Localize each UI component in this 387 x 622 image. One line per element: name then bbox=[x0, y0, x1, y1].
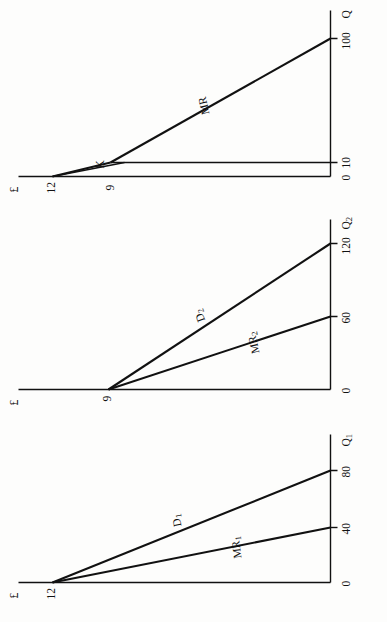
panel-3-ylabel-currency: £ bbox=[8, 186, 20, 192]
panel-3-xtick-label-0: 0 bbox=[340, 174, 352, 180]
panel-3-xtick-label-100: 100 bbox=[340, 32, 352, 49]
panel-2-xaxis-title: Q2 bbox=[340, 216, 352, 229]
panel-1-curve-label-mr1-text: MR bbox=[229, 540, 243, 559]
panel-1-xaxis-title: Q1 bbox=[340, 433, 352, 446]
panel-3-curve-mr bbox=[110, 38, 330, 162]
panel-3-xaxis-title: Q bbox=[340, 10, 352, 18]
panel-1-xtick-label-0: 0 bbox=[340, 580, 352, 586]
panel-1-xtick-label-80: 80 bbox=[340, 466, 352, 478]
panel-2-curve-label-mr2: MR2 bbox=[246, 330, 262, 354]
chart-panel-2: £ 9 0 60 120 Q2 D2 MR2 bbox=[0, 210, 387, 425]
panel-1-ylabel-currency: £ bbox=[8, 592, 20, 598]
panel-2-xtick-label-0: 0 bbox=[340, 387, 352, 393]
panel-2-curve-mr2 bbox=[108, 316, 330, 389]
panel-1-plot bbox=[0, 425, 387, 622]
figure-root: £ 12 0 40 80 Q1 D1 MR1 £ 9 0 bbox=[0, 0, 387, 622]
panel-3-plot bbox=[0, 0, 387, 210]
panel-3-ytick-9: 9 bbox=[104, 184, 116, 190]
panel-3-ytick-12: 12 bbox=[45, 182, 57, 194]
panel-1-ytick-12: 12 bbox=[45, 588, 57, 600]
panel-2-ylabel-currency: £ bbox=[8, 399, 20, 405]
panel-1-curve-label-mr1: MR1 bbox=[229, 535, 243, 558]
panel-2-xaxis-title-text: Q bbox=[339, 221, 351, 229]
panel-1-curve-label-mr1-sub: 1 bbox=[232, 535, 242, 540]
panel-2-xtick-label-60: 60 bbox=[340, 312, 352, 324]
panel-1-xaxis-title-sub: 1 bbox=[343, 433, 353, 437]
panel-2-ytick-9: 9 bbox=[101, 395, 113, 401]
panel-2-xaxis-title-sub: 2 bbox=[343, 216, 353, 220]
panel-1-xaxis-title-text: Q bbox=[339, 438, 351, 446]
panel-3-xtick-label-10: 10 bbox=[340, 157, 352, 169]
chart-panel-1: £ 12 0 40 80 Q1 D1 MR1 bbox=[0, 425, 387, 622]
chart-panel-3: £ 12 9 0 10 100 Q K MR bbox=[0, 0, 387, 210]
panel-1-curve-d1 bbox=[52, 470, 330, 582]
panel-3-xaxis-title-text: Q bbox=[339, 10, 351, 18]
panel-1-curve-label-d1: D1 bbox=[170, 513, 184, 528]
panel-1-curve-mr1 bbox=[52, 527, 330, 582]
panel-1-xtick-label-40: 40 bbox=[340, 523, 352, 535]
rotated-figure-canvas: £ 12 0 40 80 Q1 D1 MR1 £ 9 0 bbox=[0, 0, 387, 622]
panel-1-curve-label-d1-sub: 1 bbox=[173, 512, 184, 518]
panel-2-curve-d2 bbox=[108, 243, 330, 389]
panel-3-curve-lower-branch bbox=[52, 162, 124, 176]
panel-3-annotation-kink-k: K bbox=[94, 160, 106, 168]
panel-2-xtick-label-120: 120 bbox=[340, 237, 352, 254]
